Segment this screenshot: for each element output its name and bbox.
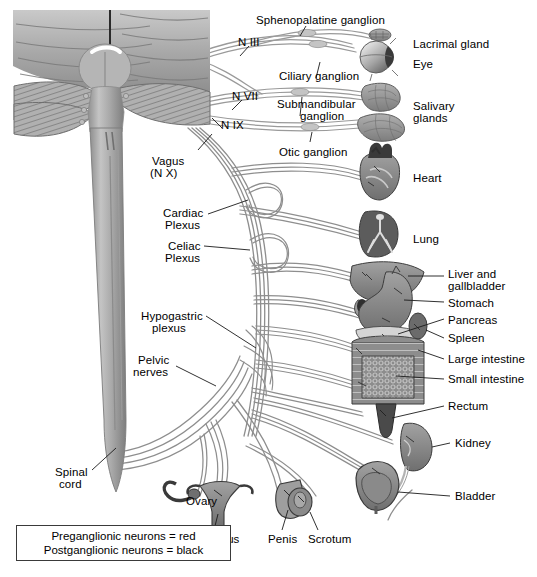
label-spinal-cord-line1: Spinal: [55, 466, 88, 479]
label-pancreas: Pancreas: [448, 314, 497, 327]
legend-postganglionic: Postganglionic neurons = black: [44, 543, 204, 557]
legend-box: Preganglionic neurons = red Postganglion…: [16, 525, 231, 561]
label-celiac-plexus-line2: Plexus: [165, 252, 200, 265]
label-submandibular-ganglion-line2: ganglion: [300, 110, 344, 123]
label-salivary-glands-line1: Salivary: [413, 100, 455, 113]
label-cardiac-plexus-line2: Plexus: [165, 219, 200, 232]
heart-illustration: [360, 143, 400, 200]
lacrimal-gland-illustration: [369, 29, 391, 41]
label-bladder: Bladder: [455, 490, 495, 503]
salivary-glands-illustration: [358, 83, 405, 142]
label-n-vii: N VII: [232, 90, 258, 103]
penis-scrotum-illustration: [276, 480, 312, 518]
label-large-intestine: Large intestine: [448, 353, 525, 366]
label-ciliary-ganglion: Ciliary ganglion: [279, 70, 359, 83]
label-otic-ganglion: Otic ganglion: [279, 146, 347, 159]
label-sphenopalatine-ganglion: Sphenopalatine ganglion: [256, 14, 385, 27]
rectum-illustration: [376, 404, 396, 438]
label-small-intestine: Small intestine: [448, 373, 524, 386]
spleen-illustration: [409, 313, 427, 339]
label-salivary-glands-line2: glands: [413, 112, 448, 125]
label-celiac-plexus-line1: Celiac: [168, 240, 201, 253]
label-vagus-line2: (N X): [150, 167, 177, 180]
label-stomach: Stomach: [448, 297, 494, 310]
label-vagus-line1: Vagus: [152, 155, 184, 168]
label-ovary: Ovary: [186, 495, 217, 508]
label-n-ix: N IX: [221, 119, 244, 132]
label-penis: Penis: [268, 533, 297, 546]
label-scrotum: Scrotum: [308, 533, 352, 546]
label-lacrimal-gland: Lacrimal gland: [413, 38, 489, 51]
label-spleen: Spleen: [448, 332, 484, 345]
label-heart: Heart: [413, 172, 442, 185]
bladder-illustration: [356, 462, 399, 514]
label-liver-line1: Liver and: [448, 268, 496, 281]
legend-preganglionic: Preganglionic neurons = red: [51, 529, 195, 543]
label-hypogastric-plexus-line2: plexus: [152, 322, 186, 335]
label-submandibular-ganglion-line1: Submandibular: [277, 98, 356, 111]
label-rectum: Rectum: [448, 400, 488, 413]
lung-illustration: [359, 211, 398, 257]
label-liver-line2: gallbladder: [448, 280, 505, 293]
label-pelvic-nerves-line2: nerves: [133, 366, 168, 379]
label-lung: Lung: [413, 233, 439, 246]
label-kidney: Kidney: [455, 437, 491, 450]
label-hypogastric-plexus-line1: Hypogastric: [141, 310, 203, 323]
label-pelvic-nerves-line1: Pelvic: [138, 354, 169, 367]
label-eye: Eye: [413, 58, 433, 71]
large-intestine-illustration: [352, 336, 424, 404]
label-cardiac-plexus-line1: Cardiac: [163, 207, 203, 220]
label-spinal-cord-line2: cord: [59, 478, 82, 491]
label-n-iii: N III: [238, 36, 260, 49]
figure-canvas: Sphenopalatine ganglion N III Ciliary ga…: [0, 0, 537, 577]
